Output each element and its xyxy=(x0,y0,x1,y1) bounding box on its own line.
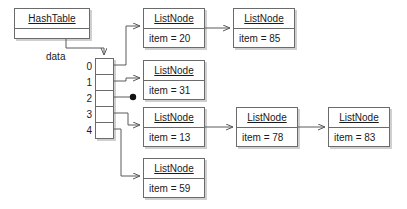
list-node-20: ListNode item = 20 xyxy=(143,8,205,48)
hashtable-title-text: HashTable xyxy=(28,13,75,24)
bucket-slot-0 xyxy=(96,59,113,75)
list-node-20-class-name: ListNode xyxy=(154,13,193,24)
list-node-83-class-name: ListNode xyxy=(339,112,378,123)
bucket-slot-1 xyxy=(96,75,113,91)
list-node-31-field: item = 31 xyxy=(144,81,204,101)
list-node-31: ListNode item = 31 xyxy=(143,60,205,100)
bucket-array xyxy=(95,58,114,139)
list-node-59-title: ListNode xyxy=(144,159,204,179)
list-node-85-class-name: ListNode xyxy=(244,13,283,24)
list-node-20-title: ListNode xyxy=(144,9,204,29)
bucket-index-label-0: 0 xyxy=(82,62,92,72)
null-marker-dot-slot2 xyxy=(130,94,136,100)
list-node-78-title: ListNode xyxy=(237,108,297,128)
bucket-slot-2 xyxy=(96,91,113,107)
bucket-index-label-2: 2 xyxy=(82,94,92,104)
list-node-59-field: item = 59 xyxy=(144,179,204,199)
list-node-85-title: ListNode xyxy=(234,9,294,29)
hash-table-diagram: HashTable data 0 1 2 3 4 ListNode item =… xyxy=(0,0,407,209)
list-node-13-title: ListNode xyxy=(144,108,204,128)
bucket-index-label-3: 3 xyxy=(82,110,92,120)
hashtable-title: HashTable xyxy=(15,9,89,29)
list-node-13-class-name: ListNode xyxy=(154,112,193,123)
bucket-index-label-4: 4 xyxy=(82,126,92,136)
list-node-59-class-name: ListNode xyxy=(154,163,193,174)
connector-data-to-array xyxy=(66,39,104,55)
list-node-83: ListNode item = 83 xyxy=(328,107,390,147)
list-node-78-class-name: ListNode xyxy=(247,112,286,123)
list-node-83-field: item = 83 xyxy=(329,128,389,148)
list-node-85-field: item = 85 xyxy=(234,29,294,49)
data-field-label: data xyxy=(46,52,65,62)
list-node-78: ListNode item = 78 xyxy=(236,107,298,147)
connector-slot1-to-node31 xyxy=(114,78,140,81)
list-node-78-field: item = 78 xyxy=(237,128,297,148)
list-node-31-title: ListNode xyxy=(144,61,204,81)
bucket-slot-3 xyxy=(96,107,113,123)
list-node-59: ListNode item = 59 xyxy=(143,158,205,198)
list-node-31-class-name: ListNode xyxy=(154,65,193,76)
connector-slot4-to-node59 xyxy=(114,129,140,176)
bucket-slot-4 xyxy=(96,123,113,138)
bucket-index-label-1: 1 xyxy=(82,78,92,88)
connector-slot3-to-node13 xyxy=(114,113,140,125)
connector-slot0-to-node20 xyxy=(114,26,140,65)
list-node-13-field: item = 13 xyxy=(144,128,204,148)
list-node-13: ListNode item = 13 xyxy=(143,107,205,147)
list-node-20-field: item = 20 xyxy=(144,29,204,49)
list-node-83-title: ListNode xyxy=(329,108,389,128)
list-node-85: ListNode item = 85 xyxy=(233,8,295,48)
hashtable-object-box: HashTable xyxy=(14,8,90,39)
hashtable-empty-compartment xyxy=(15,29,89,39)
